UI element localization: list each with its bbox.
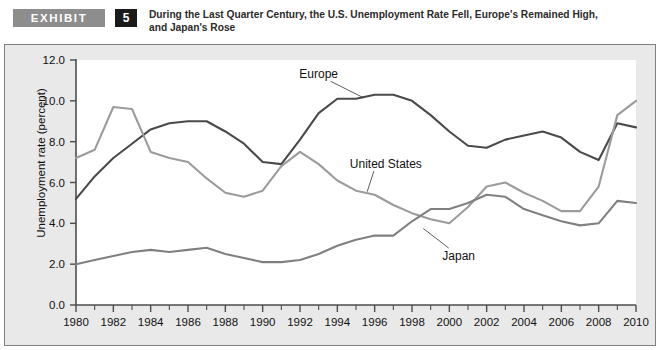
x-tick-label: 2002 — [474, 316, 500, 328]
x-tick-label: 1988 — [213, 316, 239, 328]
chart-frame: Unemployment rate (percent) 0.02.04.06.0… — [4, 44, 656, 346]
exhibit-title: During the Last Quarter Century, the U.S… — [149, 9, 598, 34]
y-axis-ticks: 0.02.04.06.08.010.012.0 — [43, 54, 76, 311]
x-tick-label: 1996 — [362, 316, 388, 328]
y-tick-label: 6.0 — [49, 177, 65, 189]
x-tick-label: 2008 — [586, 316, 612, 328]
chart-axes — [76, 59, 636, 305]
exhibit-tag: EXHIBIT — [13, 9, 105, 27]
exhibit-header: EXHIBIT 5 During the Last Quarter Centur… — [0, 0, 660, 44]
x-tick-label: 1994 — [325, 316, 351, 328]
x-tick-label: 2006 — [549, 316, 575, 328]
y-tick-label: 0.0 — [49, 299, 65, 311]
exhibit-title-line2: and Japan's Rose — [149, 22, 598, 35]
y-tick-label: 12.0 — [43, 54, 65, 66]
series-label-japan: Japan — [442, 249, 475, 263]
series-label-united-states: United States — [350, 157, 422, 171]
chart-series-group — [76, 95, 636, 264]
x-tick-label: 1984 — [138, 316, 164, 328]
leader-line-united-states — [367, 171, 374, 192]
x-tick-label: 2000 — [437, 316, 463, 328]
y-tick-label: 4.0 — [49, 217, 65, 229]
x-tick-label: 1990 — [250, 316, 276, 328]
x-tick-label: 1986 — [175, 316, 201, 328]
x-tick-label: 1992 — [287, 316, 313, 328]
exhibit-page: EXHIBIT 5 During the Last Quarter Centur… — [0, 0, 660, 350]
y-tick-label: 10.0 — [43, 95, 65, 107]
leader-line-europe — [331, 81, 364, 97]
line-chart: 0.02.04.06.08.010.012.019801982198419861… — [5, 45, 657, 347]
x-tick-label: 1982 — [101, 316, 127, 328]
exhibit-title-line1: During the Last Quarter Century, the U.S… — [149, 9, 598, 20]
x-tick-label: 2004 — [511, 316, 537, 328]
x-tick-label: 2010 — [623, 316, 649, 328]
leader-line-japan — [423, 228, 448, 248]
y-tick-label: 8.0 — [49, 136, 65, 148]
exhibit-number-badge: 5 — [115, 9, 137, 27]
series-label-europe: Europe — [299, 67, 338, 81]
y-tick-label: 2.0 — [49, 258, 65, 270]
x-tick-label: 1980 — [63, 316, 89, 328]
series-labels-group: EuropeUnited StatesJapan — [299, 67, 475, 263]
x-tick-label: 1998 — [399, 316, 425, 328]
series-line-europe — [76, 95, 636, 199]
